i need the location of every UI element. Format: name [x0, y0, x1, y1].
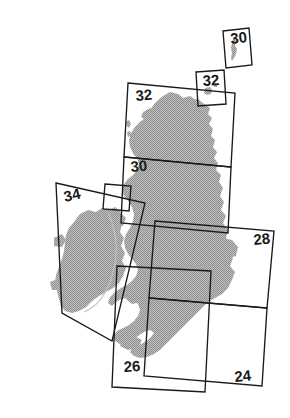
sheet-label-28-england-north: 28 — [253, 229, 271, 248]
map-index-diagram: 30 32 32 30 34 28 24 26 — [0, 0, 290, 418]
sheet-label-30-shetland: 30 — [229, 28, 248, 47]
map-svg-canvas: 30 32 32 30 34 28 24 26 — [0, 0, 290, 418]
sheet-label-30-central-scotland: 30 — [130, 157, 148, 175]
sheet-label-24-england-south: 24 — [234, 366, 253, 385]
sheet-label-32-north-scotland: 32 — [135, 86, 153, 104]
sheet-label-26-wales-southwest: 26 — [123, 357, 141, 375]
sheet-label-32-orkney: 32 — [202, 71, 220, 89]
